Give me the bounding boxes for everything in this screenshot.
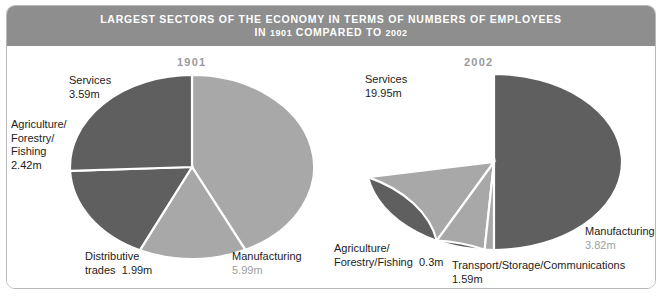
label-1901-services-value: 3.59m [69, 88, 111, 102]
chart-header-bar: LARGEST SECTORS OF THE ECONOMY IN TERMS … [7, 6, 655, 47]
label-2002-agriculture: Agriculture/ Forestry/Fishing 0.3m [334, 242, 443, 269]
label-2002-services-value: 19.95m [365, 87, 407, 101]
pie-chart-1901 [69, 74, 315, 260]
chart-frame: LARGEST SECTORS OF THE ECONOMY IN TERMS … [6, 5, 656, 289]
label-2002-transport: Transport/Storage/Communications 1.59m [452, 259, 625, 286]
label-1901-distributive-name-1: Distributive [85, 250, 152, 264]
label-1901-distributive-name-2: trades [85, 264, 116, 276]
label-1901-manufacturing-name: Manufacturing [232, 250, 302, 264]
title-prefix: IN [254, 26, 270, 38]
label-1901-agriculture-name-2: Forestry/ [11, 132, 67, 146]
label-2002-services: Services 19.95m [365, 73, 407, 100]
label-1901-agriculture: Agriculture/ Forestry/ Fishing 2.42m [11, 118, 67, 172]
label-2002-manufacturing-value: 3.82m [585, 239, 655, 253]
label-1901-agriculture-value: 2.42m [11, 159, 67, 173]
label-2002-transport-value: 1.59m [452, 273, 625, 287]
label-2002-transport-name: Transport/Storage/Communications [452, 259, 625, 273]
title-year-2002: 2002 [386, 28, 408, 38]
title-year-1901: 1901 [270, 28, 292, 38]
label-1901-services-name: Services [69, 74, 111, 88]
chart-title-line-1: LARGEST SECTORS OF THE ECONOMY IN TERMS … [100, 13, 562, 26]
label-1901-agriculture-name-1: Agriculture/ [11, 118, 67, 132]
chart-title-line-2: IN 1901 COMPARED TO 2002 [254, 26, 407, 40]
label-1901-distributive-line-2: trades 1.99m [85, 264, 152, 278]
year-label-1901: 1901 [177, 56, 206, 68]
label-2002-agriculture-line-2: Forestry/Fishing 0.3m [334, 256, 443, 270]
label-1901-distributive-trades: Distributive trades 1.99m [85, 250, 152, 277]
label-2002-manufacturing-name: Manufacturing [585, 225, 655, 239]
label-2002-agriculture-name-1: Agriculture/ [334, 242, 443, 256]
label-1901-services: Services 3.59m [69, 74, 111, 101]
title-middle: COMPARED TO [292, 26, 385, 38]
label-2002-agriculture-name-2: Forestry/Fishing [334, 256, 413, 268]
chart-canvas: 1901 2002 [7, 46, 655, 289]
label-1901-distributive-value: 1.99m [122, 264, 153, 276]
label-2002-manufacturing: Manufacturing 3.82m [585, 225, 655, 252]
label-1901-manufacturing-value: 5.99m [232, 264, 302, 278]
year-label-2002: 2002 [464, 56, 493, 68]
label-1901-agriculture-name-3: Fishing [11, 145, 67, 159]
label-1901-manufacturing: Manufacturing 5.99m [232, 250, 302, 277]
label-2002-services-name: Services [365, 73, 407, 87]
label-2002-agriculture-value: 0.3m [419, 256, 443, 268]
